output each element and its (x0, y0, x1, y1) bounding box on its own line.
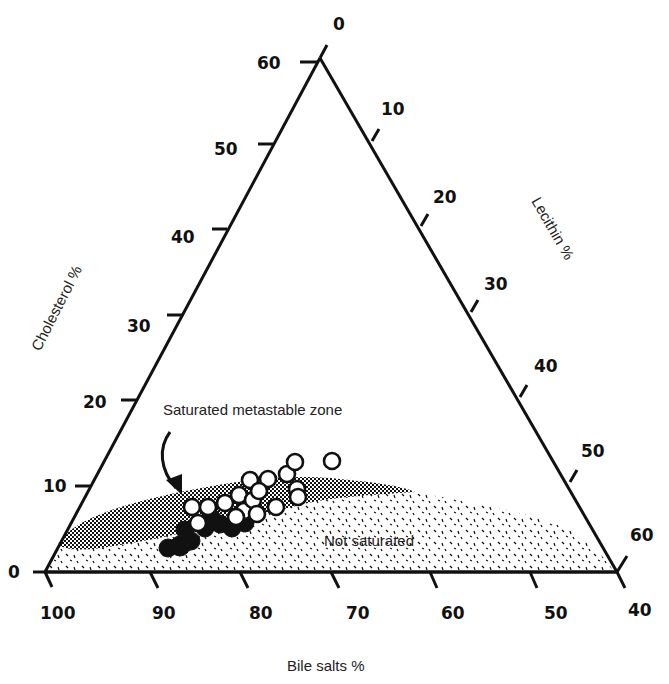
right-tick-30: 30 (484, 274, 508, 294)
right-tick-20: 20 (433, 187, 457, 207)
right-tick-60: 60 (630, 525, 654, 545)
right-tick-50: 50 (581, 441, 605, 461)
bottom-tick-60: 60 (441, 603, 465, 623)
right-tick-0: 0 (333, 14, 345, 34)
bottom-tick-70: 70 (346, 603, 370, 623)
ternary-chart: 0 10 20 30 40 50 60 0 10 20 30 40 50 60 … (0, 0, 669, 684)
bottom-tick-50: 50 (544, 603, 568, 623)
metastable-zone-label: Saturated metastable zone (163, 401, 342, 418)
not-saturated-label: Not saturated (324, 532, 414, 549)
cholesterol-axis-title: Cholesterol % (28, 262, 86, 353)
right-tick-40: 40 (534, 356, 558, 376)
left-tick-60: 60 (257, 53, 281, 73)
bottom-tick-80: 80 (249, 603, 273, 623)
bottom-tick-90: 90 (152, 603, 176, 623)
bottom-tick-40: 40 (628, 600, 652, 620)
left-tick-20: 20 (83, 392, 107, 412)
bile-salts-axis-title: Bile salts % (287, 657, 365, 674)
left-tick-40: 40 (171, 227, 195, 247)
right-tick-10: 10 (381, 99, 405, 119)
left-tick-30: 30 (127, 316, 151, 336)
left-tick-10: 10 (43, 476, 67, 496)
bottom-ticks (45, 572, 625, 588)
lecithin-axis-title: Lecithin % (528, 194, 577, 262)
left-tick-0: 0 (8, 562, 20, 582)
bottom-tick-100: 100 (40, 603, 76, 623)
left-tick-50: 50 (214, 139, 238, 159)
